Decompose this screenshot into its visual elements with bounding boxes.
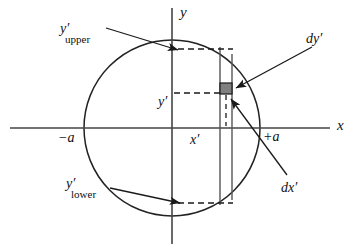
shaded-area-element [220,83,232,94]
y-upper-label: y′ upper [60,22,90,46]
y-lower-label: y′ lower [66,177,96,201]
y-lower-subscript: lower [71,189,96,200]
dy-prime-label: dy′ [306,32,322,46]
y-upper-subscript: upper [65,34,90,45]
figure-canvas: y x −a +a y′ x′ y′ upper y′ lower dy′ dx… [0,0,361,251]
y-prime-label: y′ [158,95,167,109]
positive-a-label: +a [263,130,279,144]
x-axis-label: x [337,118,344,133]
leader-line-dy-prime [236,47,312,88]
dx-prime-label: dx′ [281,181,297,195]
leader-line-y-lower [110,188,180,203]
y-axis-label: y [180,5,187,20]
negative-a-label: −a [58,131,74,145]
leader-line-y-upper [106,28,178,50]
x-prime-label: x′ [190,133,199,147]
